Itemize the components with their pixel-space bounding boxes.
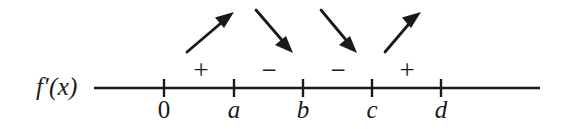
tick-label-a: a bbox=[228, 97, 241, 122]
axis-label-fprime: f′(x) bbox=[36, 74, 78, 99]
sign-chart-figure: f′(x) + − − + 0 a b c d bbox=[0, 0, 571, 129]
tick-label-d: d bbox=[435, 97, 448, 122]
tick-label-c: c bbox=[366, 97, 377, 122]
arrow-increasing-1 bbox=[187, 12, 234, 52]
trend-arrows bbox=[187, 10, 421, 53]
arrow-decreasing-1 bbox=[256, 10, 293, 53]
sign-label-interval-0-a: + bbox=[193, 57, 208, 84]
arrow-increasing-2 bbox=[385, 12, 421, 52]
sign-label-interval-b-c: − bbox=[330, 57, 345, 84]
tick-label-0: 0 bbox=[158, 97, 171, 122]
arrow-decreasing-2 bbox=[321, 10, 357, 53]
sign-label-interval-a-b: − bbox=[261, 57, 276, 84]
sign-label-interval-c-d: + bbox=[399, 57, 414, 84]
number-line-graphic bbox=[0, 0, 571, 129]
tick-label-b: b bbox=[297, 97, 310, 122]
